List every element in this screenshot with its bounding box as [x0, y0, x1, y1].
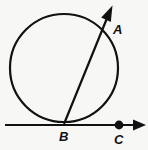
- label-a: A: [112, 22, 122, 37]
- figure-background: [0, 0, 148, 150]
- geometry-diagram: A B C: [0, 0, 148, 150]
- geometry-figure: A B C: [0, 0, 148, 150]
- point-c-dot: [115, 121, 124, 130]
- label-b: B: [59, 129, 68, 144]
- label-c: C: [114, 132, 124, 147]
